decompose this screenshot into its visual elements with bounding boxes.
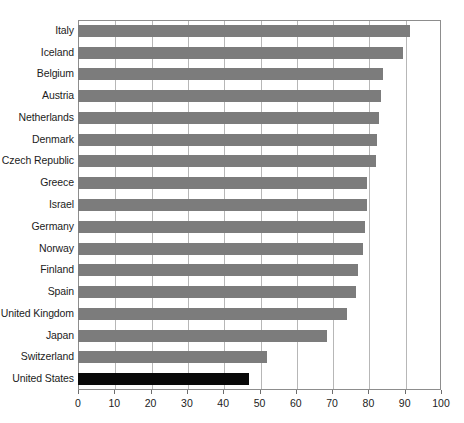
bar-row	[78, 264, 441, 276]
tick-60	[296, 390, 297, 394]
category-label-israel: Israel	[0, 198, 74, 210]
bar-row	[78, 243, 441, 255]
category-label-japan: Japan	[0, 329, 74, 341]
tick-70	[332, 390, 333, 394]
tick-label-0: 0	[75, 397, 81, 409]
value-axis: 0102030405060708090100	[78, 390, 441, 423]
category-axis-labels: ItalyIcelandBelgiumAustriaNetherlandsDen…	[0, 20, 74, 390]
bar-row	[78, 90, 441, 102]
bar-row	[78, 47, 441, 59]
bars-layer	[78, 20, 441, 390]
bar-row	[78, 373, 441, 385]
bar-italy	[78, 25, 410, 37]
category-label-united-states: United States	[0, 372, 74, 384]
bar-row	[78, 286, 441, 298]
bar-row	[78, 221, 441, 233]
bar-iceland	[78, 47, 403, 59]
tick-90	[405, 390, 406, 394]
bar-denmark	[78, 134, 377, 146]
bar-united-states	[78, 373, 249, 385]
category-label-netherlands: Netherlands	[0, 111, 74, 123]
bar-row	[78, 25, 441, 37]
tick-label-100: 100	[432, 397, 450, 409]
bar-belgium	[78, 68, 383, 80]
bar-row	[78, 134, 441, 146]
tick-label-10: 10	[108, 397, 120, 409]
tick-80	[368, 390, 369, 394]
bar-row	[78, 68, 441, 80]
category-label-belgium: Belgium	[0, 67, 74, 79]
bar-greece	[78, 177, 367, 189]
tick-label-60: 60	[290, 397, 302, 409]
bar-row	[78, 155, 441, 167]
tick-20	[151, 390, 152, 394]
bar-row	[78, 351, 441, 363]
category-label-greece: Greece	[0, 176, 74, 188]
tick-label-40: 40	[217, 397, 229, 409]
tick-30	[187, 390, 188, 394]
category-label-norway: Norway	[0, 242, 74, 254]
bar-chart: ItalyIcelandBelgiumAustriaNetherlandsDen…	[0, 0, 464, 423]
tick-50	[260, 390, 261, 394]
bar-netherlands	[78, 112, 379, 124]
tick-100	[441, 390, 442, 394]
bar-row	[78, 177, 441, 189]
tick-0	[78, 390, 79, 394]
bar-row	[78, 199, 441, 211]
tick-label-80: 80	[363, 397, 375, 409]
bar-germany	[78, 221, 365, 233]
bar-czech-republic	[78, 155, 376, 167]
tick-label-30: 30	[181, 397, 193, 409]
tick-label-90: 90	[399, 397, 411, 409]
bar-finland	[78, 264, 358, 276]
tick-label-20: 20	[145, 397, 157, 409]
category-label-finland: Finland	[0, 263, 74, 275]
category-label-spain: Spain	[0, 285, 74, 297]
category-label-switzerland: Switzerland	[0, 350, 74, 362]
bar-austria	[78, 90, 381, 102]
bar-row	[78, 330, 441, 342]
bar-japan	[78, 330, 327, 342]
bar-switzerland	[78, 351, 267, 363]
bar-norway	[78, 243, 363, 255]
bar-spain	[78, 286, 356, 298]
category-label-iceland: Iceland	[0, 46, 74, 58]
bar-row	[78, 112, 441, 124]
category-label-germany: Germany	[0, 220, 74, 232]
bar-row	[78, 308, 441, 320]
bar-israel	[78, 199, 367, 211]
tick-label-70: 70	[326, 397, 338, 409]
tick-label-50: 50	[254, 397, 266, 409]
category-label-czech-republic: Czech Republic	[0, 154, 74, 166]
bar-united-kingdom	[78, 308, 347, 320]
category-label-austria: Austria	[0, 89, 74, 101]
category-label-denmark: Denmark	[0, 133, 74, 145]
category-label-united-kingdom: United Kingdom	[0, 307, 74, 319]
tick-10	[114, 390, 115, 394]
tick-40	[223, 390, 224, 394]
category-label-italy: Italy	[0, 24, 74, 36]
